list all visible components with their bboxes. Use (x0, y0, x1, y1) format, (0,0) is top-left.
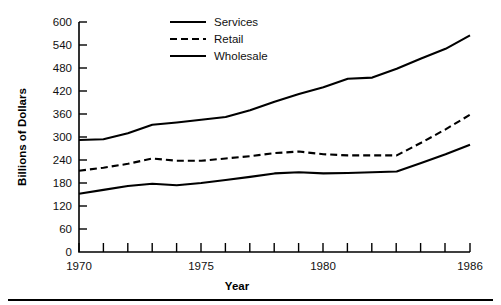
y-tick-label: 360 (53, 108, 72, 120)
legend-label-wholesale: Wholesale (214, 50, 268, 62)
y-tick-label: 120 (53, 200, 72, 212)
series-group (79, 35, 470, 193)
axis-group (79, 22, 470, 252)
x-axis-title: Year (225, 280, 250, 292)
series-line-wholesale (79, 145, 470, 194)
series-line-services (79, 35, 470, 140)
x-tick-label: 1986 (457, 260, 483, 272)
chart-figure: 600 540 480 420 360 300 240 180 120 60 0… (0, 0, 501, 305)
y-tick-label: 180 (53, 177, 72, 189)
y-axis-tick-labels: 600 540 480 420 360 300 240 180 120 60 0 (53, 16, 72, 258)
legend-label-services: Services (214, 16, 258, 28)
y-tick-label: 240 (53, 154, 72, 166)
x-axis-tick-labels: 1970 1975 1980 1986 (66, 260, 483, 272)
y-tick-label: 0 (66, 246, 72, 258)
y-tick-label: 420 (53, 85, 72, 97)
line-chart: 600 540 480 420 360 300 240 180 120 60 0… (0, 0, 501, 305)
series-line-retail (79, 115, 470, 171)
y-tick-label: 600 (53, 16, 72, 28)
y-tick-label: 60 (59, 223, 72, 235)
x-tick-marks (79, 243, 470, 252)
legend: Services Retail Wholesale (170, 16, 268, 62)
x-tick-label: 1980 (310, 260, 336, 272)
y-tick-label: 300 (53, 131, 72, 143)
x-tick-label: 1975 (188, 260, 214, 272)
y-tick-label: 540 (53, 39, 72, 51)
axis-lines (79, 22, 470, 252)
y-tick-marks (79, 22, 87, 229)
y-tick-label: 480 (53, 62, 72, 74)
legend-label-retail: Retail (214, 33, 243, 45)
y-axis-title: Billions of Dollars (16, 88, 28, 186)
x-tick-label: 1970 (66, 260, 92, 272)
